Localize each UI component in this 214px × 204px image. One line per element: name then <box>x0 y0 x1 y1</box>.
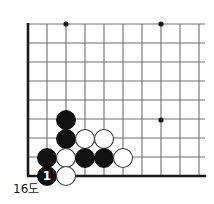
star-point <box>63 21 68 26</box>
stone-white[interactable] <box>76 130 95 149</box>
stone-black[interactable] <box>76 149 95 168</box>
stone-disc <box>76 130 95 149</box>
stone-disc <box>95 149 114 168</box>
go-board[interactable]: 1 <box>0 0 214 204</box>
stone-disc <box>57 111 76 130</box>
stone-disc <box>76 149 95 168</box>
stone-move-number: 1 <box>43 169 51 183</box>
stone-black[interactable] <box>57 130 76 149</box>
stone-black[interactable] <box>57 111 76 130</box>
go-diagram-figure: 1 16도 <box>0 0 214 204</box>
stone-disc <box>57 167 76 186</box>
stone-disc <box>57 149 76 168</box>
stone-white[interactable] <box>95 130 114 149</box>
stone-black[interactable]: 1 <box>38 167 57 186</box>
stone-black[interactable] <box>38 149 57 168</box>
stone-white[interactable] <box>114 149 133 168</box>
stone-white[interactable] <box>57 167 76 186</box>
stone-disc <box>57 130 76 149</box>
star-point <box>158 21 163 26</box>
stone-disc <box>114 149 133 168</box>
star-point <box>158 117 163 122</box>
stone-black[interactable] <box>95 149 114 168</box>
stone-white[interactable] <box>57 149 76 168</box>
board-background <box>0 0 214 204</box>
stone-disc <box>38 149 57 168</box>
figure-caption: 16도 <box>13 182 39 196</box>
stone-disc <box>95 130 114 149</box>
